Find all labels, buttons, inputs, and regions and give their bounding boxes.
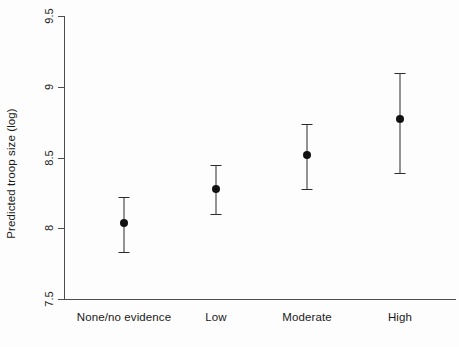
chart-figure: Predicted troop size (log) 9.598.587.5 N… bbox=[0, 0, 459, 347]
y-tick-label-wrap: 9 bbox=[40, 72, 56, 102]
error-cap-3-lower bbox=[395, 173, 406, 174]
data-point-0 bbox=[120, 219, 128, 227]
y-tick-label-wrap: 9.5 bbox=[40, 1, 56, 31]
x-category-label-2: Moderate bbox=[282, 311, 331, 323]
y-tick-label: 8.5 bbox=[34, 151, 64, 165]
y-axis-line bbox=[64, 16, 65, 299]
error-cap-2-lower bbox=[302, 189, 313, 190]
x-category-label-0: None/no evidence bbox=[77, 311, 171, 323]
x-category-label-3: High bbox=[388, 311, 412, 323]
y-tick-label-wrap: 8.5 bbox=[40, 143, 56, 173]
y-tick-label: 9 bbox=[34, 80, 64, 94]
y-tick-label: 9.5 bbox=[34, 9, 64, 23]
data-point-1 bbox=[212, 185, 220, 193]
error-cap-3-upper bbox=[395, 73, 406, 74]
error-cap-1-lower bbox=[211, 214, 222, 215]
y-tick-label-wrap: 8 bbox=[40, 213, 56, 243]
data-point-3 bbox=[396, 115, 404, 123]
y-tick-label: 8 bbox=[34, 221, 64, 235]
y-tick-label-wrap: 7.5 bbox=[40, 284, 56, 314]
y-tick-label: 7.5 bbox=[34, 292, 64, 306]
error-cap-2-upper bbox=[302, 124, 313, 125]
error-cap-0-upper bbox=[119, 197, 130, 198]
data-point-2 bbox=[303, 151, 311, 159]
x-axis-line bbox=[64, 299, 456, 300]
y-axis-label: Predicted troop size (log) bbox=[0, 0, 22, 347]
error-cap-1-upper bbox=[211, 165, 222, 166]
error-cap-0-lower bbox=[119, 252, 130, 253]
x-category-label-1: Low bbox=[205, 311, 226, 323]
